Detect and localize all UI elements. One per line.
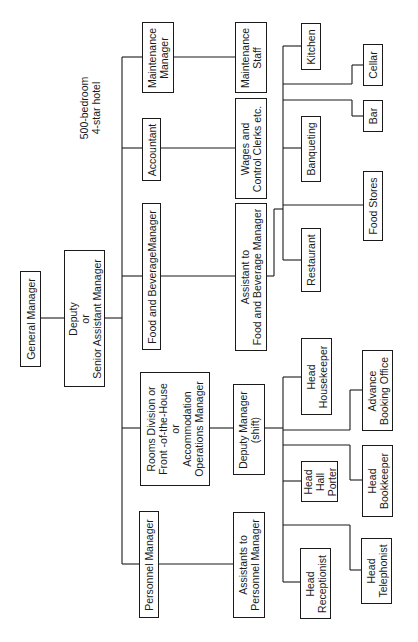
node-personnel-manager: Personnel Manager: [139, 511, 159, 618]
node-food-beverage-manager: Food and BeverageManager: [142, 203, 161, 350]
hotel-size-note: 500-bedroom 4-star hotel: [78, 58, 102, 158]
node-general-manager: General Manager: [20, 271, 41, 367]
node-assistants-personnel: Assistants to Personnel Manager: [233, 512, 265, 618]
node-cellar: Cellar: [363, 44, 383, 86]
node-restaurant: Restaurant: [301, 228, 321, 292]
org-chart: 500-bedroom 4-star hotel General Manager…: [0, 0, 418, 642]
node-deputy-manager-shift: Deputy Manager (shift): [233, 384, 265, 475]
node-bar: Bar: [363, 100, 383, 132]
node-wages-clerks: Wages and Control Clerks etc.: [235, 98, 267, 199]
node-head-receptionist: Head Receptionist: [300, 548, 331, 619]
connector-lines: [0, 0, 418, 642]
node-assistant-fb-manager: Assistant to Food and Beverage Manager: [235, 203, 267, 351]
node-rooms-division-manager: Rooms Division or Front -of-the-House or…: [140, 372, 210, 486]
node-head-housekeeper: Head Housekeeper: [301, 338, 332, 415]
node-deputy: Deputy or Senior Assistant Manager: [64, 250, 105, 387]
node-kitchen: Kitchen: [301, 23, 321, 70]
node-maintenance-manager: Maintenance Manager: [142, 22, 174, 93]
node-food-stores: Food Stores: [363, 171, 383, 241]
node-head-hall-porter: Head Hall Porter: [301, 461, 338, 502]
node-advance-booking: Advance Booking Office: [362, 350, 393, 431]
node-head-bookkeeper: Head Bookkeeper: [362, 445, 393, 517]
node-accountant: Accountant: [142, 118, 161, 181]
node-maintenance-staff: Maintenance Staff: [235, 22, 267, 93]
node-head-telephonist: Head Telephonist: [361, 538, 392, 604]
node-banqueting: Banqueting: [301, 116, 321, 182]
